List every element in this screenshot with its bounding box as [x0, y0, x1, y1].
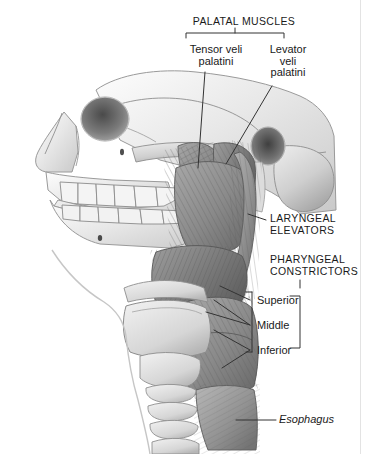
label-inferior: Inferior [257, 345, 291, 357]
label-laryngeal-elevators: LARYNGEAL ELEVATORS [270, 213, 364, 236]
label-middle: Middle [257, 320, 289, 332]
figure-border [360, 0, 361, 454]
palatal-bracket [186, 33, 284, 38]
anatomical-figure: PALATAL MUSCLES Tensor veli palatini Lev… [0, 0, 367, 454]
label-tensor-veli-palatini: Tensor veli palatini [174, 44, 258, 67]
label-esophagus: Esophagus [279, 414, 334, 426]
label-palatal-muscles: PALATAL MUSCLES [184, 16, 304, 28]
label-pharyngeal-constrictors: PHARYNGEAL CONSTRICTORS [270, 254, 366, 277]
esophagus [194, 384, 260, 454]
label-superior: Superior [257, 295, 299, 307]
label-levator-veli-palatini: Levator veli palatini [258, 44, 318, 79]
tracheal-rings [146, 384, 199, 454]
